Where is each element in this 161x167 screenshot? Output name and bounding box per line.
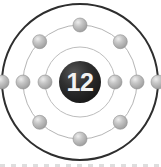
electron-middle-shell-5 xyxy=(16,75,30,89)
electron-inner-shell-1 xyxy=(38,75,52,89)
bottom-dotted-rule xyxy=(0,164,161,167)
electron-outer-shell-1 xyxy=(0,75,9,89)
atom-stage: 12 xyxy=(0,0,161,161)
electron-inner-shell-2 xyxy=(108,75,122,89)
nucleus: 12 xyxy=(59,61,101,103)
electron-middle-shell-4 xyxy=(33,35,47,49)
electron-middle-shell-8 xyxy=(113,115,127,129)
nucleus-atomic-number-label: 12 xyxy=(67,68,94,96)
electron-outer-shell-2 xyxy=(151,75,161,89)
electron-middle-shell-6 xyxy=(33,115,47,129)
electron-middle-shell-2 xyxy=(113,35,127,49)
electron-middle-shell-1 xyxy=(130,75,144,89)
electron-middle-shell-3 xyxy=(73,18,87,32)
bohr-model-diagram: 12 xyxy=(0,0,161,167)
electron-middle-shell-7 xyxy=(73,132,87,146)
atom-svg-canvas: 12 xyxy=(0,0,161,161)
